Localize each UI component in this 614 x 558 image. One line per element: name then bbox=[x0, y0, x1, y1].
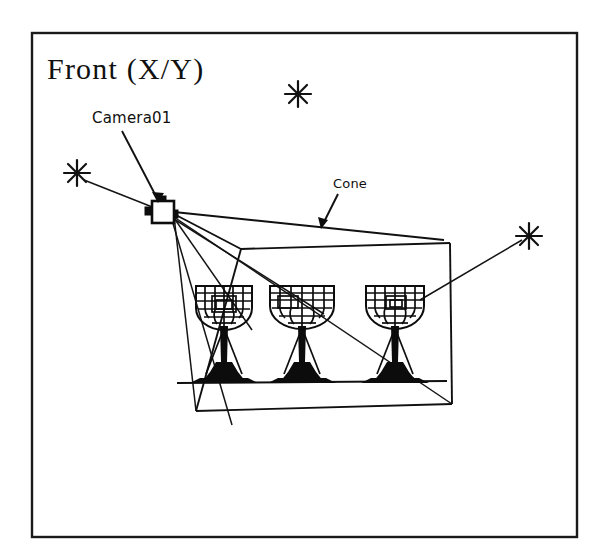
cone-far-plane-bottom bbox=[196, 404, 452, 411]
goblet-foot-shadow bbox=[268, 378, 336, 383]
goblet-stem bbox=[298, 326, 306, 362]
viewport-front-xy: Front (X/Y) bbox=[0, 0, 614, 558]
camera-object[interactable] bbox=[145, 196, 178, 223]
goblet-2[interactable] bbox=[268, 286, 336, 383]
camera-annotation[interactable]: Camera01 bbox=[92, 109, 172, 203]
light-marker-left[interactable] bbox=[64, 160, 90, 186]
camera-leader-line bbox=[122, 131, 158, 200]
star-icon bbox=[285, 81, 311, 107]
light-marker-right[interactable] bbox=[516, 223, 542, 249]
cone-annotation[interactable]: Cone bbox=[318, 176, 367, 229]
goblet-foot-shadow bbox=[361, 378, 429, 383]
light-marker-top[interactable] bbox=[285, 81, 311, 107]
camera-label: Camera01 bbox=[92, 109, 172, 127]
cone-near-plane-top bbox=[241, 243, 450, 249]
cone-edge-right-wall bbox=[450, 243, 452, 404]
viewport-canvas[interactable]: Front (X/Y) bbox=[0, 0, 614, 558]
camera-icon[interactable] bbox=[152, 201, 174, 223]
goblet-meridians bbox=[375, 286, 415, 326]
goblet-foot-shadow bbox=[190, 378, 258, 383]
star-icon bbox=[516, 223, 542, 249]
cone-label: Cone bbox=[333, 176, 367, 191]
goblet-stem bbox=[391, 326, 399, 362]
viewport-title: Front (X/Y) bbox=[47, 52, 204, 86]
goblet-stem bbox=[220, 326, 228, 362]
goblet-1[interactable] bbox=[190, 286, 258, 383]
goblet-3[interactable] bbox=[361, 286, 429, 383]
light-ray-right bbox=[420, 240, 522, 300]
star-icon bbox=[64, 160, 90, 186]
goblet-meridians bbox=[205, 286, 243, 326]
goblet-inner-detail bbox=[386, 296, 406, 309]
